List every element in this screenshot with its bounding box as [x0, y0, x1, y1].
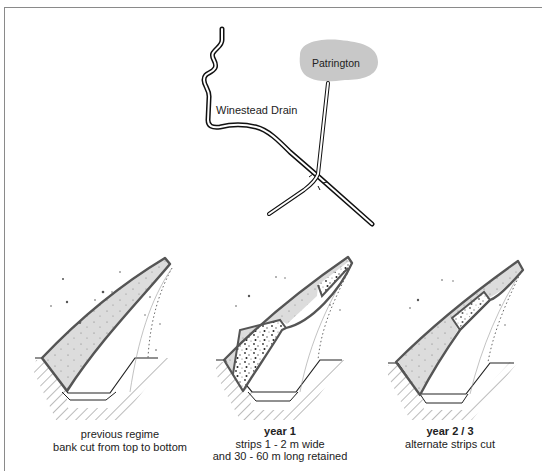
bank-diagram-year-1 [216, 257, 352, 420]
bank-diagram-year-2-3 [388, 261, 523, 420]
caption-title: year 2 / 3 [360, 425, 540, 438]
caption-line: alternate strips cut [360, 438, 540, 451]
caption-line: and 30 - 60 m long retained [190, 450, 370, 463]
caption-year-2-3: year 2 / 3 alternate strips cut [360, 425, 540, 450]
caption-year-1: year 1 strips 1 - 2 m wide and 30 - 60 m… [190, 425, 370, 463]
caption-title: year 1 [190, 425, 370, 438]
illustration-canvas [0, 0, 542, 471]
caption-line: bank cut from top to bottom [30, 441, 210, 454]
caption-previous-regime: previous regime bank cut from top to bot… [30, 428, 210, 453]
caption-line: previous regime [30, 428, 210, 441]
road [269, 83, 328, 214]
caption-line: strips 1 - 2 m wide [190, 438, 370, 451]
bank-diagram-previous-regime [34, 258, 172, 420]
river-label: Winestead Drain [216, 104, 297, 116]
town-label: Patrington [312, 57, 360, 69]
